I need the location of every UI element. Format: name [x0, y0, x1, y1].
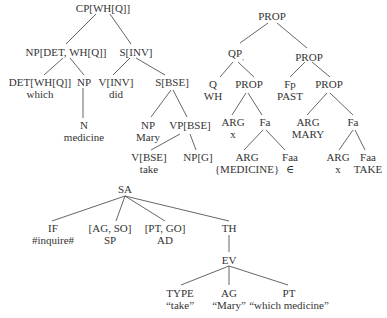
node-label: PT [249, 287, 329, 299]
edge [113, 58, 130, 75]
node-pt-go: [PT, GO] AD [145, 222, 186, 246]
node-label: [AG, SO] [89, 222, 132, 234]
node-fa-left: Fa [260, 116, 271, 128]
node-prop-right: PROP [295, 51, 323, 63]
node-label: CP[WH[Q]] [76, 2, 130, 14]
node-fa-right: Fa [348, 116, 359, 128]
node-type: TYPE “take” [166, 287, 194, 311]
node-label: S[BSE] [155, 76, 189, 88]
node-label: PROP [295, 51, 323, 63]
node-label: ARG [292, 116, 324, 128]
diagram-canvas: CP[WH[Q]] NP[DET, WH[Q]] S[INV] DET[WH[Q… [0, 0, 387, 318]
node-pt: PT “which medicine” [249, 287, 329, 311]
node-word: PAST [277, 90, 303, 102]
node-arg-medicine: ARG {MEDICINE} [215, 151, 279, 175]
edge [125, 196, 165, 221]
node-if: IF #inquire# [32, 222, 74, 246]
node-arg-mary: ARG MARY [292, 116, 324, 140]
edge [44, 58, 63, 75]
node-label: Fp [277, 78, 303, 90]
edge [229, 266, 288, 285]
node-word: TAKE [354, 163, 382, 175]
node-label: [PT, GO] [145, 222, 186, 234]
edge [70, 58, 84, 75]
edge [277, 23, 307, 48]
node-word: #inquire# [32, 234, 74, 246]
node-label: PROP [235, 78, 263, 90]
node-label: ARG [215, 151, 279, 163]
node-vp-bse: VP[BSE] [169, 119, 211, 131]
node-label: PROP [258, 10, 286, 22]
node-label: AG [212, 287, 246, 299]
node-np-g: NP[G] [183, 151, 212, 163]
node-word: “which medicine” [249, 299, 329, 311]
node-v-bse: V[BSE] take [131, 151, 166, 175]
node-label: NP [136, 119, 160, 131]
node-v-inv: V[INV] did [99, 76, 134, 100]
node-word: ∈ [282, 163, 298, 175]
node-q-wh: Q WH [204, 78, 222, 102]
node-label: ARG [221, 116, 244, 128]
node-label: TYPE [166, 287, 194, 299]
qp-subscript: , [242, 54, 244, 62]
edge [312, 62, 330, 77]
edge [110, 14, 131, 44]
edge [136, 58, 165, 75]
node-th: TH [222, 222, 237, 234]
node-label: V[INV] [99, 76, 134, 88]
edge [266, 130, 285, 150]
edge [290, 62, 305, 77]
qp-text: QP [228, 47, 242, 59]
node-label: S[INV] [120, 46, 153, 58]
edge [355, 130, 365, 150]
node-label: EV [222, 254, 237, 266]
edge [125, 196, 229, 221]
node-word: did [99, 88, 134, 100]
node-qp: QP, [228, 47, 244, 64]
node-label: Q [204, 78, 222, 90]
node-label: NP[DET, WH[Q]] [26, 46, 107, 58]
edge [307, 93, 327, 115]
node-word: AD [145, 234, 186, 246]
edge [220, 62, 233, 77]
node-word: x [326, 163, 349, 175]
node-s-bse: S[BSE] [155, 76, 189, 88]
node-label: QP, [228, 47, 244, 64]
node-label: Faa [282, 151, 298, 163]
edge [339, 130, 353, 150]
node-np-mary: NP Mary [136, 119, 160, 143]
node-label: TH [222, 222, 237, 234]
node-label: PROP [315, 78, 343, 90]
node-label: IF [32, 222, 74, 234]
node-n-medicine: N medicine [64, 119, 104, 143]
edge [330, 93, 353, 115]
node-label: N [64, 119, 104, 131]
node-word: Mary [136, 131, 160, 143]
node-word: take [131, 163, 166, 175]
node-word: SP [89, 234, 132, 246]
node-word: WH [204, 90, 222, 102]
node-arg-x: ARG x [221, 116, 244, 140]
node-ag-so: [AG, SO] SP [89, 222, 132, 246]
node-ev: EV [222, 254, 237, 266]
edge [248, 93, 262, 115]
node-prop-root: PROP [258, 10, 286, 22]
node-label: DET[WH[Q]] [9, 76, 71, 88]
node-word: x [221, 128, 244, 140]
node-np-det-wh: NP[DET, WH[Q]] [26, 46, 107, 58]
edge [173, 90, 187, 117]
node-det-wh-q: DET[WH[Q]] which [9, 76, 71, 100]
edge [151, 90, 171, 117]
node-s-inv: S[INV] [120, 46, 153, 58]
node-ag: AG “Mary” [212, 287, 246, 311]
node-label: Faa [354, 151, 382, 163]
edge [116, 196, 125, 221]
node-prop-q: PROP [235, 78, 263, 90]
edge [244, 130, 263, 150]
node-label: SA [118, 183, 132, 195]
node-label: Fa [348, 116, 359, 128]
node-label: VP[BSE] [169, 119, 211, 131]
node-word: medicine [64, 131, 104, 143]
node-sa: SA [118, 183, 132, 195]
edge [181, 266, 229, 285]
